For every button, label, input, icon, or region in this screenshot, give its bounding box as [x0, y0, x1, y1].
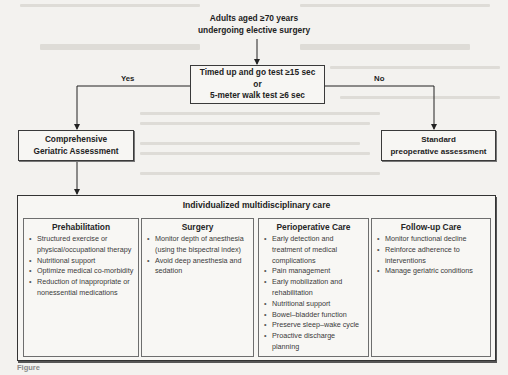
care-column-surgery: Surgery Monitor depth of anesthesia (usi… — [141, 218, 254, 357]
standard-assessment-node: Standard preoperative assessment — [381, 130, 496, 161]
care-title: Individualized multidisciplinary care — [18, 200, 495, 210]
column-list: Monitor functional decline Reinforce adh… — [376, 234, 486, 277]
decision-line1: Timed up and go test ≥15 sec — [200, 67, 316, 79]
list-item: Manage geriatric conditions — [376, 266, 486, 277]
standard-line1: Standard — [421, 134, 456, 146]
column-heading: Surgery — [146, 222, 249, 233]
decision-line2: or — [253, 79, 261, 91]
comprehensive-geriatric-assessment-node: Comprehensive Geriatric Assessment — [18, 130, 134, 161]
list-item: Preserve sleep–wake cycle — [263, 320, 364, 331]
care-column-prehabilitation: Prehabilitation Structured exercise or p… — [23, 218, 139, 357]
cga-line1: Comprehensive — [45, 134, 107, 146]
multidisciplinary-care-box: Individualized multidisciplinary care Pr… — [17, 195, 496, 361]
list-item: Reinforce adherence to interventions — [376, 245, 486, 267]
decision-line3: 5-meter walk test ≥6 sec — [210, 90, 305, 102]
list-item: Avoid deep anesthesia and sedation — [146, 256, 249, 278]
list-item: Bowel–bladder function — [263, 310, 364, 321]
yes-branch-line — [77, 86, 190, 129]
list-item: Nutritional support — [263, 299, 364, 310]
list-item: Nutritional support — [28, 256, 134, 267]
start-node-line1: Adults aged ≥70 years — [134, 12, 374, 24]
figure-caption: Figure — [17, 363, 40, 372]
care-column-perioperative: Perioperative Care Early detection and t… — [258, 218, 369, 357]
no-branch-line — [325, 86, 434, 129]
column-list: Structured exercise or physical/occupati… — [28, 234, 134, 299]
list-item: Monitor functional decline — [376, 234, 486, 245]
care-column-follow-up: Follow-up Care Monitor functional declin… — [371, 218, 491, 357]
column-heading: Perioperative Care — [263, 222, 364, 233]
start-node: Adults aged ≥70 years undergoing electiv… — [134, 12, 374, 36]
yes-label: Yes — [121, 74, 134, 83]
column-list: Monitor depth of anesthesia (using the b… — [146, 234, 249, 277]
list-item: Pain management — [263, 266, 364, 277]
decision-node: Timed up and go test ≥15 sec or 5-meter … — [190, 65, 325, 104]
column-list: Early detection and treatment of medical… — [263, 234, 364, 353]
list-item: Monitor depth of anesthesia (using the b… — [146, 234, 249, 256]
standard-line2: preoperative assessment — [390, 146, 486, 158]
column-heading: Follow-up Care — [376, 222, 486, 233]
cga-line2: Geriatric Assessment — [33, 146, 118, 158]
list-item: Optimize medical co-morbidity — [28, 266, 134, 277]
list-item: Early mobilization and rehabilitation — [263, 277, 364, 299]
column-heading: Prehabilitation — [28, 222, 134, 233]
list-item: Structured exercise or physical/occupati… — [28, 234, 134, 256]
list-item: Early detection and treatment of medical… — [263, 234, 364, 266]
no-label: No — [374, 74, 384, 83]
list-item: Proactive discharge planning — [263, 331, 364, 353]
start-node-line2: undergoing elective surgery — [134, 24, 374, 36]
list-item: Reduction of inappropriate or nonessenti… — [28, 277, 134, 299]
